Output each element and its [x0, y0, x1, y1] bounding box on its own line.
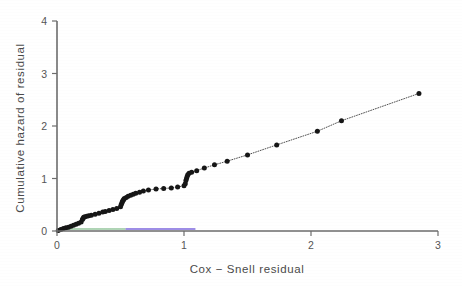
- data-point: [194, 168, 199, 173]
- x-axis-title: Cox − Snell residual: [190, 263, 305, 275]
- x-tick-label: 3: [435, 239, 441, 251]
- data-point: [146, 188, 151, 193]
- data-point: [212, 162, 217, 167]
- data-point: [245, 152, 250, 157]
- data-point: [175, 184, 180, 189]
- x-tick-label: 1: [181, 239, 187, 251]
- x-axis-ticks: 0123: [54, 231, 441, 251]
- chart-figure: 0123 01234 Cox − Snell residual Cumulati…: [0, 0, 462, 286]
- data-point: [274, 142, 279, 147]
- data-point: [416, 91, 421, 96]
- data-point: [141, 189, 146, 194]
- y-axis-ticks: 01234: [41, 15, 57, 237]
- x-tick-label: 2: [308, 239, 314, 251]
- axes-group: [57, 21, 438, 231]
- data-point: [154, 187, 159, 192]
- data-point: [161, 186, 166, 191]
- cox-snell-residual-plot: 0123 01234 Cox − Snell residual Cumulati…: [0, 0, 462, 286]
- y-tick-label: 1: [41, 173, 47, 185]
- data-point: [189, 170, 194, 175]
- data-point: [225, 159, 230, 164]
- x-tick-label: 0: [54, 239, 60, 251]
- y-tick-label: 4: [41, 15, 47, 27]
- data-point: [339, 118, 344, 123]
- data-point: [202, 166, 207, 171]
- y-tick-label: 2: [41, 120, 47, 132]
- y-tick-label: 0: [41, 225, 47, 237]
- y-tick-label: 3: [41, 68, 47, 80]
- data-point: [315, 129, 320, 134]
- data-point: [169, 185, 174, 190]
- y-axis-title: Cumulative hazard of residual: [14, 43, 26, 213]
